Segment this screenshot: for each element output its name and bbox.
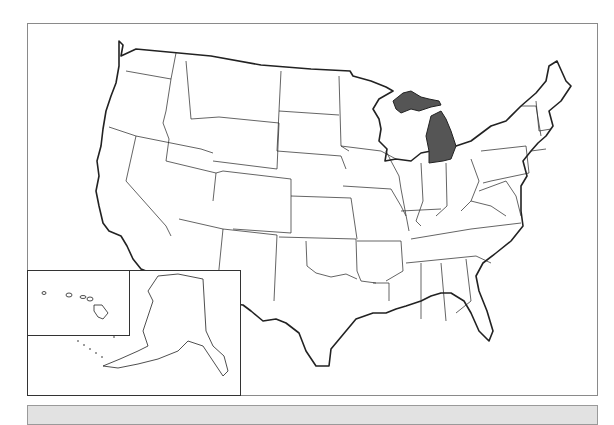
alaska-hawaii-inset (27, 270, 241, 396)
alaska-map (28, 271, 240, 395)
bottom-bar (27, 405, 598, 425)
